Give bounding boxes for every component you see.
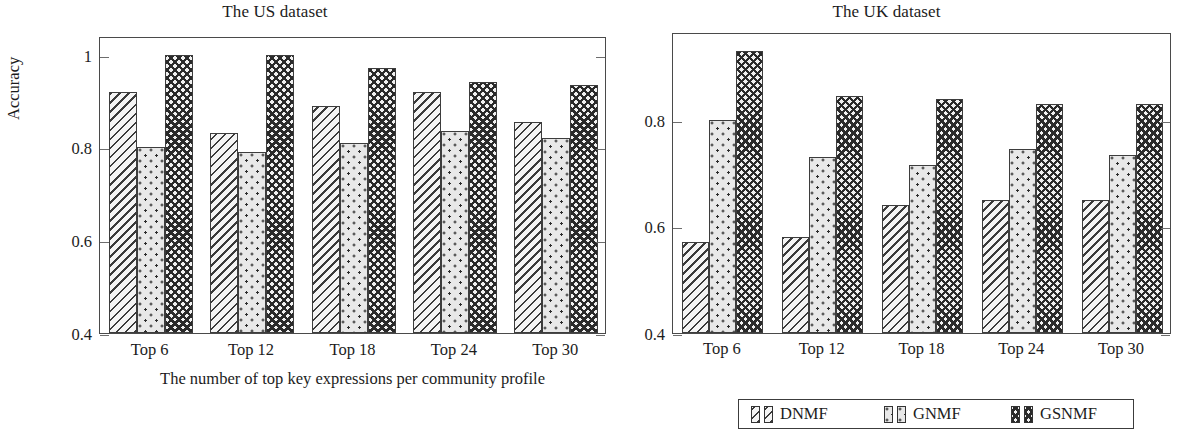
legend-label-dnmf: DNMF	[780, 404, 828, 424]
chart-title-uk: The UK dataset	[618, 2, 1155, 22]
tick-mark-right	[596, 57, 605, 58]
legend-label-gnmf: GNMF	[913, 404, 961, 424]
legend-swatch-gsnmf-a	[1011, 406, 1020, 423]
bar-gsnmf-top-24	[1036, 104, 1063, 333]
bar-gsnmf-top-18	[936, 99, 963, 333]
tick-mark-left	[100, 57, 109, 58]
tick-mark-left	[673, 335, 682, 336]
x-tick-label-top-6: Top 6	[131, 340, 169, 360]
bar-dnmf-top-24	[982, 200, 1009, 333]
y-tick-label: 0.4	[71, 327, 92, 344]
bar-dnmf-top-30	[1082, 200, 1109, 333]
x-tick-label-top-30: Top 30	[1098, 339, 1144, 359]
bar-gnmf-top-6	[709, 120, 736, 333]
bar-gsnmf-top-12	[266, 55, 294, 333]
x-tick-label-top-18: Top 18	[329, 340, 375, 360]
bar-gnmf-top-6	[137, 147, 165, 333]
x-tick-label-top-12: Top 12	[228, 340, 274, 360]
bar-gnmf-top-30	[542, 138, 570, 333]
bar-dnmf-top-30	[514, 122, 542, 333]
legend-label-gsnmf: GSNMF	[1040, 404, 1097, 424]
y-axis-label-us: Accuracy	[4, 57, 24, 120]
bar-gsnmf-top-6	[165, 55, 193, 333]
legend-entry-gnmf: GNMF	[884, 404, 961, 424]
chart-legend: DNMF GNMF GSNMF	[738, 399, 1134, 429]
bar-gnmf-top-18	[909, 165, 936, 333]
legend-swatch-gnmf-a	[884, 406, 893, 423]
y-tick-label: 1	[84, 48, 92, 65]
y-tick-label: 0.8	[71, 141, 92, 158]
tick-mark-right	[1161, 122, 1170, 123]
legend-entry-gsnmf: GSNMF	[1011, 404, 1097, 424]
bar-container-us	[100, 38, 605, 333]
x-tick-label-top-30: Top 30	[532, 340, 578, 360]
chart-title-us: The US dataset	[0, 2, 595, 22]
y-tick-label: 0.6	[644, 220, 665, 237]
bar-gsnmf-top-24	[469, 82, 497, 333]
x-axis-label-us: The number of top key expressions per co…	[99, 369, 606, 389]
tick-mark-right	[596, 242, 605, 243]
legend-entry-dnmf: DNMF	[751, 404, 828, 424]
bar-gnmf-top-12	[238, 152, 266, 333]
bar-gnmf-top-24	[441, 131, 469, 333]
plot-area-uk: 0.40.60.8	[672, 33, 1171, 334]
bar-dnmf-top-24	[413, 92, 441, 333]
bar-container-uk	[673, 34, 1170, 333]
bar-dnmf-top-6	[682, 242, 709, 333]
x-tick-label-top-24: Top 24	[998, 339, 1044, 359]
legend-swatch-dnmf-a	[751, 406, 760, 423]
bar-dnmf-top-18	[882, 205, 909, 333]
bar-gnmf-top-24	[1009, 149, 1036, 333]
x-tick-label-top-12: Top 12	[799, 339, 845, 359]
x-tick-label-top-24: Top 24	[431, 340, 477, 360]
y-tick-label: 0.6	[71, 234, 92, 251]
chart-panel-us: The US dataset Accuracy 0.40.60.81 Top 6…	[0, 0, 640, 436]
bar-gsnmf-top-30	[570, 85, 598, 333]
bar-dnmf-top-18	[312, 106, 340, 333]
tick-mark-left	[673, 228, 682, 229]
y-axis-label-text: Accuracy	[4, 57, 24, 120]
legend-swatch-gnmf-b	[897, 406, 906, 423]
y-tick-label: 0.8	[644, 114, 665, 131]
chart-panel-uk: The UK dataset 0.40.60.8 Top 6Top 12Top …	[640, 0, 1177, 436]
bar-dnmf-top-6	[109, 92, 137, 333]
tick-mark-left	[100, 149, 109, 150]
tick-mark-left	[100, 242, 109, 243]
tick-mark-right	[1161, 228, 1170, 229]
tick-mark-left	[673, 122, 682, 123]
bar-dnmf-top-12	[782, 237, 809, 333]
tick-mark-right	[596, 149, 605, 150]
x-tick-label-top-18: Top 18	[898, 339, 944, 359]
tick-mark-right	[1161, 335, 1170, 336]
bar-gnmf-top-18	[340, 143, 368, 333]
bar-gsnmf-top-18	[368, 68, 396, 333]
x-tick-label-top-6: Top 6	[703, 339, 741, 359]
bar-gsnmf-top-12	[836, 96, 863, 333]
bar-dnmf-top-12	[210, 133, 238, 333]
plot-area-us: 0.40.60.81	[99, 37, 606, 334]
legend-swatch-dnmf-b	[764, 406, 773, 423]
bar-gnmf-top-30	[1109, 155, 1136, 333]
legend-swatch-gsnmf-b	[1024, 406, 1033, 423]
tick-mark-left	[100, 335, 109, 336]
y-tick-label: 0.4	[644, 327, 665, 344]
bar-gnmf-top-12	[809, 157, 836, 333]
bar-gsnmf-top-30	[1136, 104, 1163, 333]
tick-mark-right	[596, 335, 605, 336]
bar-gsnmf-top-6	[736, 51, 763, 333]
